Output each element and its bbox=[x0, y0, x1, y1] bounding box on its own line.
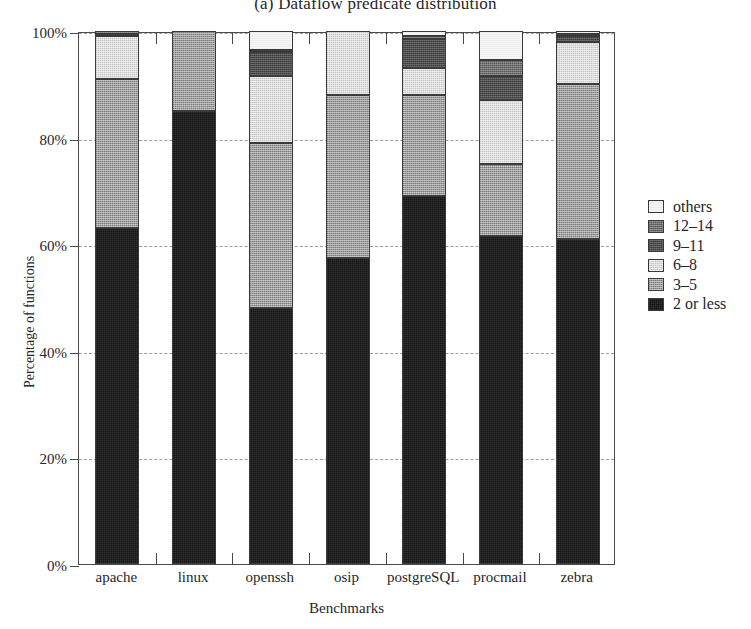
bar-segment-osip-6–8 bbox=[326, 31, 370, 95]
bar-segment-postgreSQL-6–8 bbox=[402, 68, 446, 95]
x-axis-tick-top bbox=[539, 33, 540, 44]
bar-segment-openssh-2-or-less bbox=[249, 308, 293, 564]
bar-segment-zebra-2-or-less bbox=[556, 239, 600, 564]
bar-segment-postgreSQL-9–11 bbox=[402, 39, 446, 68]
legend-item-6–8: 6–8 bbox=[648, 256, 748, 276]
bar-linux bbox=[172, 31, 216, 564]
bar-segment-zebra-3–5 bbox=[556, 84, 600, 239]
legend-item-3–5: 3–5 bbox=[648, 275, 748, 295]
x-axis-label-osip: osip bbox=[334, 569, 359, 586]
y-axis-tick bbox=[70, 566, 79, 567]
bar-zebra bbox=[556, 31, 600, 564]
y-axis-tick bbox=[70, 353, 79, 354]
bar-segment-procmail-6–8 bbox=[479, 100, 523, 164]
bar-apache bbox=[95, 31, 139, 564]
legend-swatch-icon bbox=[648, 298, 664, 311]
x-axis-label-openssh: openssh bbox=[246, 569, 294, 586]
x-axis-tick-bottom bbox=[539, 553, 540, 564]
legend-swatch-icon bbox=[648, 200, 664, 213]
x-axis-label-linux: linux bbox=[178, 569, 209, 586]
bar-segment-zebra-others bbox=[556, 31, 600, 34]
x-axis-label-procmail: procmail bbox=[473, 569, 526, 586]
x-axis-tick-top bbox=[156, 33, 157, 44]
x-axis-label-apache: apache bbox=[96, 569, 138, 586]
y-axis-tick bbox=[70, 459, 79, 460]
bar-segment-procmail-12–14 bbox=[479, 60, 523, 76]
x-axis-tick-bottom bbox=[232, 553, 233, 564]
legend-swatch-icon bbox=[648, 239, 664, 252]
bar-segment-postgreSQL-12–14 bbox=[402, 36, 446, 39]
chart-plot-area: 0%20%40%60%80%100% bbox=[78, 32, 615, 565]
x-axis-tick-top bbox=[386, 33, 387, 44]
bar-segment-openssh-3–5 bbox=[249, 143, 293, 308]
bar-segment-apache-9–11 bbox=[95, 34, 139, 37]
y-axis-tick-label: 20% bbox=[40, 451, 68, 468]
x-axis-tick-bottom bbox=[309, 553, 310, 564]
bar-segment-linux-3–5 bbox=[172, 31, 216, 111]
bar-segment-apache-6–8 bbox=[95, 36, 139, 79]
legend-item-12–14: 12–14 bbox=[648, 217, 748, 237]
bar-segment-postgreSQL-3–5 bbox=[402, 95, 446, 196]
y-axis-tick bbox=[70, 246, 79, 247]
legend-label: 6–8 bbox=[673, 257, 697, 273]
bar-segment-openssh-6–8 bbox=[249, 76, 293, 143]
legend-item-others: others bbox=[648, 197, 748, 217]
legend-item-2-or-less: 2 or less bbox=[648, 295, 748, 315]
bar-segment-procmail-3–5 bbox=[479, 164, 523, 236]
y-axis-tick bbox=[70, 33, 79, 34]
legend-label: 12–14 bbox=[673, 218, 713, 234]
figure-title: (a) Dataflow predicate distribution bbox=[0, 0, 751, 14]
y-axis-title: Percentage of functions bbox=[22, 256, 38, 388]
legend-label: 3–5 bbox=[673, 277, 697, 293]
chart-legend: others12–149–116–83–52 or less bbox=[648, 197, 748, 314]
bar-segment-apache-2-or-less bbox=[95, 228, 139, 564]
y-axis-tick-label: 0% bbox=[47, 558, 67, 575]
x-axis-title: Benchmarks bbox=[78, 600, 615, 617]
bar-segment-apache-12–14 bbox=[95, 31, 139, 34]
bar-segment-osip-2-or-less bbox=[326, 258, 370, 564]
x-axis-label-zebra: zebra bbox=[560, 569, 592, 586]
x-axis-tick-bottom bbox=[156, 553, 157, 564]
bar-procmail bbox=[479, 31, 523, 564]
bar-segment-zebra-6–8 bbox=[556, 42, 600, 85]
legend-swatch-icon bbox=[648, 278, 664, 291]
bar-postgreSQL bbox=[402, 31, 446, 564]
x-axis-tick-bottom bbox=[386, 553, 387, 564]
y-axis-tick-label: 40% bbox=[40, 344, 68, 361]
legend-label: 2 or less bbox=[673, 296, 726, 312]
legend-item-9–11: 9–11 bbox=[648, 236, 748, 256]
bar-openssh bbox=[249, 31, 293, 564]
y-axis-tick-label: 100% bbox=[32, 25, 67, 42]
x-axis-tick-top bbox=[463, 33, 464, 44]
bar-segment-procmail-others bbox=[479, 31, 523, 60]
x-axis-tick-top bbox=[232, 33, 233, 44]
legend-label: 9–11 bbox=[673, 238, 704, 254]
bar-segment-postgreSQL-others bbox=[402, 31, 446, 36]
bar-segment-apache-3–5 bbox=[95, 79, 139, 228]
bar-segment-openssh-12–14 bbox=[249, 50, 293, 53]
bar-segment-procmail-2-or-less bbox=[479, 236, 523, 564]
y-axis-tick-label: 80% bbox=[40, 131, 68, 148]
bar-segment-postgreSQL-2-or-less bbox=[402, 196, 446, 564]
x-axis-label-postgreSQL: postgreSQL bbox=[387, 569, 460, 586]
x-axis-tick-top bbox=[309, 33, 310, 44]
legend-label: others bbox=[673, 199, 712, 215]
bar-segment-openssh-others bbox=[249, 31, 293, 50]
bar-segment-linux-2-or-less bbox=[172, 111, 216, 564]
bar-segment-openssh-9–11 bbox=[249, 52, 293, 76]
legend-swatch-icon bbox=[648, 220, 664, 233]
legend-swatch-icon bbox=[648, 259, 664, 272]
bar-osip bbox=[326, 31, 370, 564]
bar-segment-zebra-12–14 bbox=[556, 34, 600, 37]
x-axis-tick-bottom bbox=[463, 553, 464, 564]
bar-segment-osip-3–5 bbox=[326, 95, 370, 258]
bar-segment-zebra-9–11 bbox=[556, 36, 600, 41]
y-axis-tick-label: 60% bbox=[40, 238, 68, 255]
bar-segment-procmail-9–11 bbox=[479, 76, 523, 100]
y-axis-tick bbox=[70, 140, 79, 141]
